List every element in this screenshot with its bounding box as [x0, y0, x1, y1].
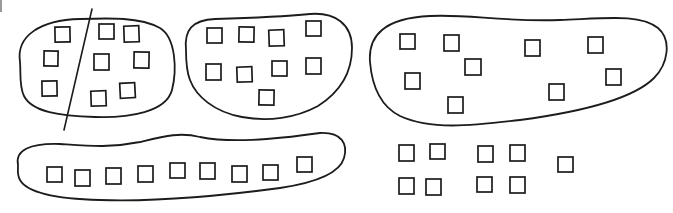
group-1	[20, 9, 175, 130]
item	[588, 37, 603, 53]
item	[99, 24, 114, 39]
group-4-outline	[18, 133, 346, 200]
ungrouped-items	[399, 144, 573, 195]
item	[42, 81, 57, 96]
item	[232, 166, 247, 182]
item	[47, 167, 62, 182]
group-4-items	[47, 157, 312, 186]
item	[94, 54, 109, 70]
item	[510, 145, 525, 161]
item	[124, 26, 140, 43]
item	[448, 97, 463, 113]
group-2	[186, 14, 352, 119]
item	[237, 67, 253, 83]
item	[465, 59, 481, 75]
item	[272, 61, 287, 76]
item	[430, 144, 445, 159]
item	[399, 178, 414, 194]
corner-mark	[0, 0, 2, 12]
item	[306, 58, 321, 74]
group-1-items	[42, 24, 149, 106]
item	[138, 166, 153, 182]
item	[91, 91, 107, 107]
item	[206, 64, 221, 80]
item	[549, 84, 564, 100]
group-1-outline	[20, 18, 175, 117]
group-4	[18, 133, 346, 200]
item	[55, 27, 70, 42]
item	[120, 83, 136, 99]
group-3-items	[400, 34, 621, 113]
item	[606, 69, 621, 85]
group-2-items	[206, 21, 321, 105]
group-3-outline	[370, 16, 667, 126]
item	[478, 146, 493, 162]
grouping-diagram	[0, 0, 673, 213]
item	[200, 163, 215, 179]
item	[400, 34, 415, 49]
group-3	[370, 16, 667, 126]
item	[510, 177, 525, 193]
item	[558, 157, 573, 172]
item	[297, 157, 312, 172]
item	[170, 163, 185, 178]
item	[405, 73, 420, 89]
item	[263, 165, 278, 180]
item	[306, 21, 321, 36]
item	[399, 145, 414, 161]
item	[444, 35, 459, 51]
item	[269, 30, 285, 47]
item	[75, 170, 90, 186]
item	[239, 27, 254, 42]
item	[426, 179, 441, 195]
item	[525, 40, 540, 56]
item	[259, 90, 274, 105]
item	[134, 52, 149, 68]
item	[106, 168, 121, 184]
item	[44, 51, 58, 66]
item	[477, 177, 492, 192]
item	[207, 28, 222, 43]
